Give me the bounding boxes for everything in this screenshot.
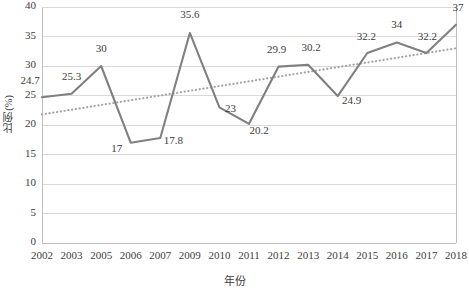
y-axis-tick-label: 0 (8, 235, 36, 247)
y-axis-tick-label: 30 (8, 58, 36, 70)
line-chart: 比例(%) 年份 0510152025303540 20022003200520… (0, 0, 469, 292)
y-axis-tick-label: 35 (8, 29, 36, 41)
y-axis-tick-label: 40 (8, 0, 36, 11)
data-point-label: 35.6 (180, 8, 199, 20)
data-point-label: 32.2 (418, 30, 437, 42)
trendline (42, 48, 456, 114)
y-axis-tick-label: 15 (8, 147, 36, 159)
data-point-label: 32.2 (357, 30, 376, 42)
data-point-label: 17 (111, 142, 122, 154)
y-axis-tick-label: 20 (8, 117, 36, 129)
data-point-label: 23 (225, 102, 236, 114)
data-point-label: 29.9 (267, 43, 286, 55)
data-point-label: 17.8 (164, 134, 183, 146)
data-point-label: 37 (453, 1, 464, 13)
data-point-label: 24.7 (20, 74, 39, 86)
data-point-label: 20.2 (249, 124, 268, 136)
data-point-label: 25.3 (62, 70, 81, 82)
data-point-label: 34 (391, 18, 402, 30)
y-axis-tick-label: 5 (8, 206, 36, 218)
data-point-label: 24.9 (342, 94, 361, 106)
data-point-label: 30.2 (302, 41, 321, 53)
x-axis-tick-label: 2018 (436, 249, 469, 261)
y-axis-tick-label: 25 (8, 88, 36, 100)
y-axis-tick-label: 10 (8, 176, 36, 188)
data-point-label: 30 (96, 42, 107, 54)
x-axis-title: 年份 (0, 272, 469, 288)
